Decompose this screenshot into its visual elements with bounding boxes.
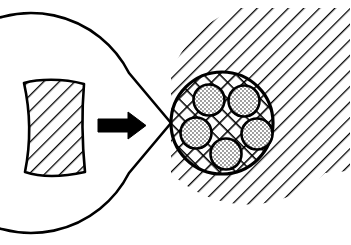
- stippled-inclusion: [242, 119, 273, 150]
- stippled-inclusion: [181, 118, 212, 149]
- stippled-inclusion: [229, 86, 260, 117]
- stippled-inclusion: [194, 85, 225, 116]
- figure-canvas: Wedge segment inserted into hatched annu…: [0, 0, 351, 245]
- stippled-inclusion: [211, 139, 242, 170]
- technical-diagram: Wedge segment inserted into hatched annu…: [0, 0, 351, 245]
